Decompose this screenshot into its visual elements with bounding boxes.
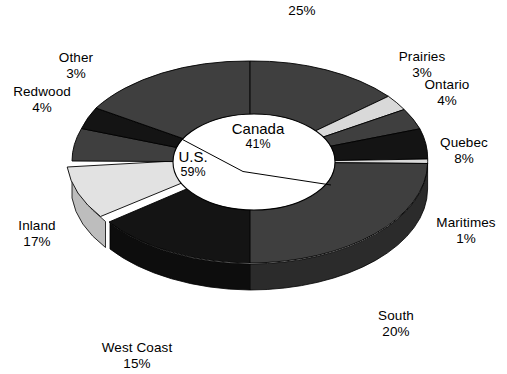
label-maritimes: Maritimes 1% — [426, 215, 506, 247]
label-other-pct: 3% — [46, 66, 106, 82]
label-quebec-name: Quebec — [428, 135, 500, 151]
label-redwood-pct: 4% — [0, 100, 84, 116]
label-inland: Inland 17% — [6, 218, 68, 250]
label-west-coast-pct: 15% — [85, 356, 189, 372]
label-maritimes-pct: 1% — [426, 231, 506, 247]
inner-label-canada: Canada 41% — [213, 120, 303, 151]
label-west-coast: West Coast 15% — [85, 340, 189, 372]
label-quebec-pct: 8% — [428, 151, 500, 167]
inner-label-us: U.S. 59% — [153, 148, 233, 179]
inner-label-canada-name: Canada — [213, 120, 303, 137]
inner-label-us-name: U.S. — [153, 148, 233, 165]
label-west-coast-name: West Coast — [85, 340, 189, 356]
label-quebec: Quebec 8% — [428, 135, 500, 167]
label-south-name: South — [363, 308, 429, 324]
label-other: Other 3% — [46, 50, 106, 82]
label-british-columbia-pct: 25% — [222, 3, 382, 19]
label-other-name: Other — [46, 50, 106, 66]
label-inland-name: Inland — [6, 218, 68, 234]
pie-chart: Canada 41% U.S. 59% British Columbia 25%… — [0, 0, 507, 374]
label-ontario: Ontario 4% — [412, 77, 482, 109]
label-maritimes-name: Maritimes — [426, 215, 506, 231]
label-prairies-name: Prairies — [384, 49, 460, 65]
label-ontario-name: Ontario — [412, 77, 482, 93]
label-redwood-name: Redwood — [0, 84, 84, 100]
label-inland-pct: 17% — [6, 234, 68, 250]
label-ontario-pct: 4% — [412, 93, 482, 109]
label-british-columbia: British Columbia 25% — [222, 0, 382, 19]
label-redwood: Redwood 4% — [0, 84, 84, 116]
label-south-pct: 20% — [363, 324, 429, 340]
inner-label-us-pct: 59% — [153, 165, 233, 179]
label-south: South 20% — [363, 308, 429, 340]
